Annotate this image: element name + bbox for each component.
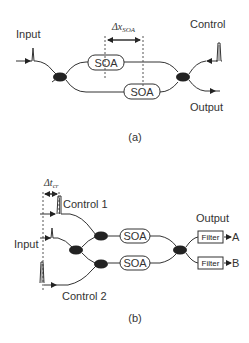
- delta-x-label: ΔxSOA: [111, 21, 136, 34]
- panel-a: Input SOA SOA Control Output: [16, 18, 225, 143]
- port-a-label: A: [232, 231, 240, 243]
- diagram-canvas: Input SOA SOA Control Output: [0, 0, 249, 343]
- coupler-upper: [94, 232, 108, 241]
- input-fiber: [36, 61, 58, 76]
- caption-a: (a): [128, 131, 141, 143]
- control2-pulse-icon: [40, 262, 44, 283]
- coupler-output: [173, 246, 187, 255]
- filter-upper-label: Filter: [202, 233, 220, 242]
- output-label: Output: [190, 101, 223, 113]
- control2-label: Control 2: [62, 290, 107, 302]
- control-pulse-icon: [216, 43, 222, 61]
- soa-upper-b-label: SOA: [123, 230, 147, 242]
- input-label: Input: [16, 28, 40, 40]
- caption-b: (b): [128, 312, 141, 324]
- port-b-label: B: [232, 257, 239, 269]
- panel-b: Δtcr Control 1 Input Control 2: [14, 177, 240, 324]
- soa-lower-b-label: SOA: [123, 257, 147, 269]
- control1-label: Control 1: [63, 198, 108, 210]
- input-label-b: Input: [14, 238, 38, 250]
- soa-lower-label: SOA: [130, 86, 154, 98]
- coupler-right: [176, 73, 190, 82]
- filter-lower-label: Filter: [202, 259, 220, 268]
- output-label-b: Output: [196, 212, 229, 224]
- control-label: Control: [190, 18, 225, 30]
- coupler-lower: [94, 260, 108, 269]
- soa-upper-label: SOA: [94, 57, 118, 69]
- input-pulse-icon-b: [50, 228, 55, 238]
- input-pulse-icon: [30, 48, 36, 61]
- delta-t-label: Δtcr: [43, 177, 59, 190]
- coupler-input-split: [69, 246, 83, 255]
